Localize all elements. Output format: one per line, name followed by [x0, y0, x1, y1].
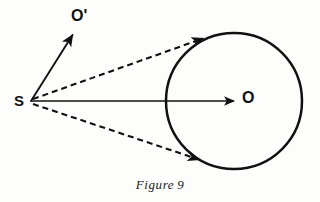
figure-caption: Figure9	[0, 177, 320, 193]
figure-caption-number: 9	[174, 177, 184, 192]
label-point-o: O	[242, 90, 254, 106]
geometry-diagram	[0, 0, 320, 202]
figure-container: S O' O Figure9	[0, 0, 320, 202]
label-point-o-prime: O'	[71, 8, 87, 24]
figure-caption-label: Figure	[136, 177, 175, 192]
vector-s-to-o-prime	[31, 35, 73, 101]
label-point-s: S	[14, 93, 24, 108]
upper-tangent-line	[33, 39, 203, 100]
